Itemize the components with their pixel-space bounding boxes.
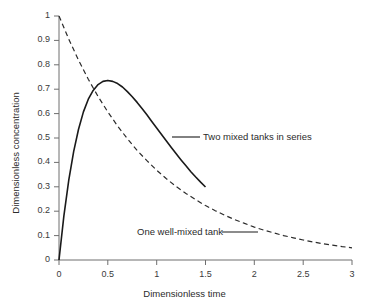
- x-tick-label: 2.5: [288, 269, 318, 279]
- x-tick-label: 3: [337, 269, 367, 279]
- y-tick-label: 0.3: [22, 181, 50, 191]
- annotation-label-one-well-mixed-tank: One well-mixed tank: [137, 226, 223, 237]
- x-tick-label: 0: [44, 269, 74, 279]
- y-tick-label: 0.2: [22, 205, 50, 215]
- annotation-label-two-mixed-tanks: Two mixed tanks in series: [203, 131, 312, 142]
- y-tick-label: 0.4: [22, 156, 50, 166]
- x-tick-label: 2: [239, 269, 269, 279]
- y-axis-title: Dimensionless concentration: [10, 0, 21, 306]
- y-tick-label: 1: [22, 10, 50, 20]
- y-tick-label: 0.6: [22, 108, 50, 118]
- x-tick-label: 1.5: [191, 269, 221, 279]
- x-tick-label: 0.5: [93, 269, 123, 279]
- y-tick-label: 0.9: [22, 34, 50, 44]
- x-tick-marks: [59, 260, 352, 265]
- y-tick-label: 0: [22, 254, 50, 264]
- chart-figure: 0 0.1 0.2 0.3 0.4 0.5 0.6 0.7 0.8 0.9 1 …: [0, 0, 369, 306]
- y-tick-label: 0.1: [22, 230, 50, 240]
- y-tick-label: 0.7: [22, 83, 50, 93]
- y-tick-marks: [54, 16, 59, 260]
- x-tick-label: 1: [142, 269, 172, 279]
- y-tick-label: 0.8: [22, 59, 50, 69]
- plot-area: [0, 0, 369, 306]
- x-axis-title: Dimensionless time: [0, 288, 369, 299]
- y-tick-label: 0.5: [22, 132, 50, 142]
